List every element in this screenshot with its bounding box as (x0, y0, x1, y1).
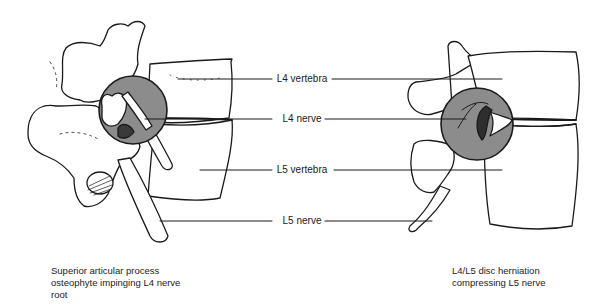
caption-right-line-1: L4/L5 disc herniation (452, 265, 545, 277)
caption-left: Superior articular process osteophyte im… (51, 265, 180, 301)
label-l4-vertebra: L4 vertebra (274, 73, 331, 85)
label-l4-nerve: L4 nerve (280, 113, 325, 125)
right-posterior-element-lower (411, 140, 454, 192)
right-spine-illustration (312, 42, 579, 232)
caption-left-line-3: root (51, 289, 180, 301)
spine-diagram (0, 0, 603, 307)
label-l5-vertebra: L5 vertebra (274, 164, 331, 176)
caption-right-line-2: compressing L5 nerve (452, 277, 545, 289)
label-l5-nerve: L5 nerve (280, 215, 325, 227)
caption-left-line-1: Superior articular process (51, 265, 180, 277)
caption-left-line-2: osteophyte impinging L4 nerve (51, 277, 180, 289)
caption-right: L4/L5 disc herniation compressing L5 ner… (452, 265, 545, 289)
left-spine-illustration (28, 22, 272, 243)
